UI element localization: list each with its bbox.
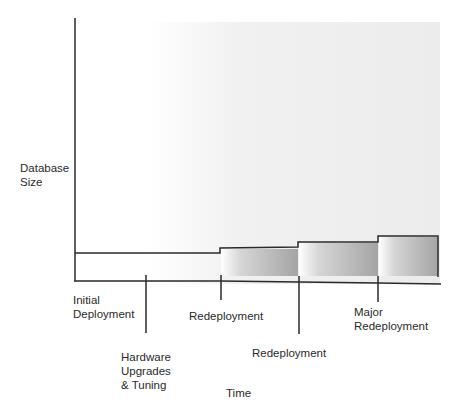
event-label-line: Major [354,305,428,319]
event-major-redeployment: Major Redeployment [354,305,428,333]
database-growth-diagram [0,0,463,416]
growth-segment-3 [379,237,438,276]
event-initial-deployment: Initial Deployment [73,293,134,321]
event-label-line: Hardware [121,350,171,364]
event-label-line: Redeployment [189,309,263,323]
y-axis-label: Database Size [20,161,69,189]
x-axis [74,281,441,284]
growth-segment-2 [299,243,378,276]
y-axis-label-line: Size [20,175,69,189]
event-label-line: Upgrades [121,364,171,378]
event-redeployment-1: Redeployment [189,309,263,323]
growth-segment-1 [221,249,298,276]
x-axis-label: Time [226,386,251,400]
event-label-line: Redeployment [252,346,326,360]
y-axis-label-line: Database [20,161,69,175]
event-label-line: Initial [73,293,134,307]
event-label-line: Redeployment [354,319,428,333]
event-label-line: & Tuning [121,378,171,392]
event-hardware-upgrades: Hardware Upgrades & Tuning [121,350,171,392]
x-axis-label-text: Time [226,387,251,399]
event-redeployment-2: Redeployment [252,346,326,360]
event-label-line: Deployment [73,307,134,321]
